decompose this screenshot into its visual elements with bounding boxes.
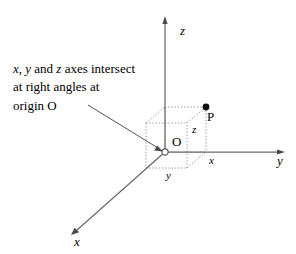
coordinate-axes-figure: x, y and z axes intersect at right angle… bbox=[0, 0, 296, 254]
z-axis-arrowhead bbox=[162, 16, 167, 24]
box-depth-edge-top-right bbox=[187, 107, 206, 123]
dimension-z-label: z bbox=[192, 124, 196, 135]
axis-lines bbox=[77, 22, 279, 230]
point-p-label: P bbox=[207, 110, 214, 123]
box-depth-edge-bottom-right bbox=[187, 152, 206, 168]
axis-arrowheads bbox=[71, 16, 285, 235]
axes-diagram-svg bbox=[0, 0, 296, 254]
z-axis-label: z bbox=[180, 24, 185, 37]
caption-line-3: origin O bbox=[13, 97, 173, 115]
caption-line-1: x, y and z axes intersect bbox=[13, 60, 173, 78]
caption-text: x, y and z axes intersect at right angle… bbox=[13, 60, 173, 115]
x-axis-line bbox=[77, 152, 165, 230]
origin-label: O bbox=[172, 135, 181, 148]
caption-line-1-tail: axes intersect bbox=[61, 61, 135, 76]
dimension-x-label: x bbox=[209, 155, 214, 166]
caption-sep-2: and bbox=[31, 61, 56, 76]
dimension-y-label: y bbox=[166, 170, 171, 181]
y-axis-label: y bbox=[277, 154, 283, 167]
x-axis-label: x bbox=[74, 235, 80, 248]
caption-line-2: at right angles at bbox=[13, 78, 173, 96]
origin-marker bbox=[162, 149, 168, 155]
